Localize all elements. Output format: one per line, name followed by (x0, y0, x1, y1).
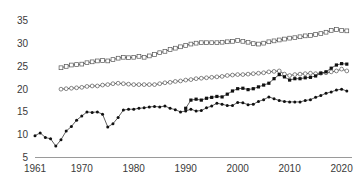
data-point-open-circle (288, 74, 292, 78)
data-point-filled-circle (236, 101, 239, 104)
data-point-open-square (85, 61, 89, 65)
data-point-open-square (231, 39, 235, 43)
data-point-open-square (158, 51, 162, 55)
data-point-open-circle (121, 82, 125, 86)
data-point-filled-circle (44, 136, 47, 139)
data-point-open-circle (111, 82, 115, 86)
data-point-filled-circle (226, 104, 229, 107)
data-point-open-circle (106, 83, 110, 87)
data-point-filled-circle (148, 105, 151, 108)
data-point-open-circle (340, 67, 344, 71)
y-axis-tick-label: 15 (17, 106, 29, 117)
data-point-filled-circle (273, 97, 276, 100)
data-point-open-circle (59, 87, 63, 91)
data-point-filled-circle (169, 107, 172, 110)
data-point-open-circle (189, 78, 193, 82)
data-point-open-square (147, 54, 151, 58)
data-point-open-square (64, 64, 68, 68)
data-point-filled-circle (257, 100, 260, 103)
data-point-filled-circle (70, 125, 73, 128)
y-axis-tick-labels: 5101520253035 (17, 15, 29, 163)
data-point-filled-circle (205, 106, 208, 109)
chart-container: 5101520253035 19611970198019902000201020… (0, 0, 359, 183)
data-point-filled-square (226, 93, 229, 96)
x-axis-tick-label: 2010 (279, 163, 302, 174)
data-point-open-circle (309, 71, 313, 75)
data-point-filled-square (304, 76, 307, 79)
data-point-open-circle (127, 82, 131, 86)
data-point-filled-circle (49, 137, 52, 140)
data-point-open-circle (335, 69, 339, 73)
data-point-open-square (153, 53, 157, 57)
data-point-open-circle (225, 74, 229, 78)
data-point-filled-circle (340, 88, 343, 91)
data-point-open-square (215, 41, 219, 45)
data-point-open-square (59, 66, 63, 70)
data-point-filled-square (262, 83, 265, 86)
data-point-open-square (340, 29, 344, 33)
data-point-open-circle (293, 73, 297, 77)
data-point-open-circle (236, 73, 240, 77)
data-point-filled-square (257, 85, 260, 88)
data-point-filled-square (288, 78, 291, 81)
data-point-filled-circle (122, 109, 125, 112)
data-point-open-circle (303, 72, 307, 76)
data-point-filled-square (335, 63, 338, 66)
data-point-filled-circle (288, 100, 291, 103)
data-point-filled-circle (200, 109, 203, 112)
data-point-open-circle (69, 86, 73, 90)
data-point-filled-circle (85, 110, 88, 113)
series-filled-squares-line (186, 64, 347, 109)
data-point-filled-circle (34, 134, 37, 137)
data-point-open-square (75, 63, 79, 67)
data-point-open-circle (251, 72, 255, 76)
data-point-filled-circle (221, 103, 224, 106)
data-point-filled-circle (101, 113, 104, 116)
data-point-open-circle (179, 79, 183, 83)
data-point-filled-square (220, 95, 223, 98)
data-point-open-square (106, 59, 110, 63)
series-filled-circles-line (35, 89, 347, 146)
data-point-open-square (335, 28, 339, 32)
data-point-open-circle (101, 83, 105, 87)
data-point-open-square (251, 42, 255, 46)
y-axis-tick-label: 5 (22, 152, 28, 163)
data-point-open-square (225, 40, 229, 44)
data-point-open-circle (85, 85, 89, 89)
data-point-open-square (314, 33, 318, 37)
data-point-open-circle (153, 83, 157, 87)
y-axis-tick-label: 25 (17, 61, 29, 72)
data-point-open-square (329, 29, 333, 33)
data-point-filled-circle (143, 106, 146, 109)
data-point-filled-square (210, 96, 213, 99)
data-point-filled-square (278, 73, 281, 76)
data-point-filled-square (205, 97, 208, 100)
data-point-filled-square (298, 77, 301, 80)
data-point-filled-square (184, 107, 187, 110)
data-point-open-square (288, 36, 292, 40)
data-point-open-square (205, 41, 209, 45)
data-point-filled-circle (111, 122, 114, 125)
data-point-filled-square (340, 62, 343, 65)
data-point-open-circle (158, 82, 162, 86)
data-point-open-square (111, 58, 115, 62)
data-point-filled-circle (184, 110, 187, 113)
data-point-open-square (179, 45, 183, 49)
data-point-filled-circle (179, 110, 182, 113)
data-point-filled-circle (132, 108, 135, 111)
data-point-filled-square (324, 70, 327, 73)
data-point-open-circle (210, 75, 214, 79)
y-axis-tick-label: 30 (17, 38, 29, 49)
data-point-open-circle (298, 72, 302, 76)
data-point-open-square (127, 56, 131, 60)
data-point-open-square (80, 62, 84, 66)
data-point-filled-circle (80, 115, 83, 118)
data-point-filled-circle (314, 96, 317, 99)
data-point-filled-square (236, 87, 239, 90)
data-point-filled-circle (91, 111, 94, 114)
data-point-open-square (345, 29, 349, 33)
data-point-open-circle (64, 87, 68, 91)
data-point-filled-square (231, 89, 234, 92)
data-point-open-square (101, 59, 105, 63)
data-point-filled-circle (267, 95, 270, 98)
